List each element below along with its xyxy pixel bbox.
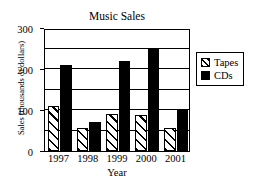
bar-tapes	[164, 128, 176, 151]
x-axis-tick-label: 1997	[48, 153, 69, 165]
bar-cds	[148, 49, 160, 152]
bar-cds	[119, 61, 131, 151]
x-axis-label: Year	[44, 167, 190, 179]
legend-item-tapes: Tapes	[201, 56, 238, 69]
y-axis-tick	[40, 151, 44, 153]
bar-tapes	[135, 115, 147, 151]
bar-tapes	[48, 106, 60, 151]
x-axis-tick-labels: 19971998199920002001	[44, 153, 190, 167]
x-axis-tick-label: 2001	[165, 153, 186, 165]
chart-legend: Tapes CDs	[196, 52, 244, 86]
legend-item-cds: CDs	[201, 69, 238, 82]
x-axis-tick-label: 1998	[77, 153, 98, 165]
x-axis-tick-label: 1999	[107, 153, 128, 165]
bar-cds	[89, 122, 101, 151]
bar-tapes	[106, 114, 118, 151]
bar-cds	[177, 110, 189, 151]
y-axis-tick	[40, 110, 44, 112]
bar-tapes	[77, 128, 89, 151]
y-axis-tick-label: 0	[28, 147, 33, 158]
chart-title: Music Sales	[44, 10, 190, 23]
y-axis-tick-label: 100	[17, 106, 33, 117]
music-sales-bar-chart: Music Sales Sales (thousands of dollars)…	[0, 0, 257, 187]
legend-label-cds: CDs	[214, 70, 233, 82]
bar-cds	[60, 65, 72, 151]
legend-swatch-cds-icon	[201, 71, 210, 80]
legend-swatch-tapes-icon	[201, 58, 210, 67]
x-axis-tick-label: 2000	[136, 153, 157, 165]
plot-area	[44, 29, 190, 152]
plot-inner	[45, 30, 189, 151]
y-axis-tick	[40, 69, 44, 71]
legend-label-tapes: Tapes	[214, 57, 238, 69]
y-axis-label: Sales (thousands of dollars)	[16, 26, 26, 150]
bars-layer	[45, 30, 189, 151]
y-axis-tick-label: 300	[17, 24, 33, 35]
y-axis-tick	[40, 28, 44, 30]
y-axis-tick-label: 200	[17, 65, 33, 76]
